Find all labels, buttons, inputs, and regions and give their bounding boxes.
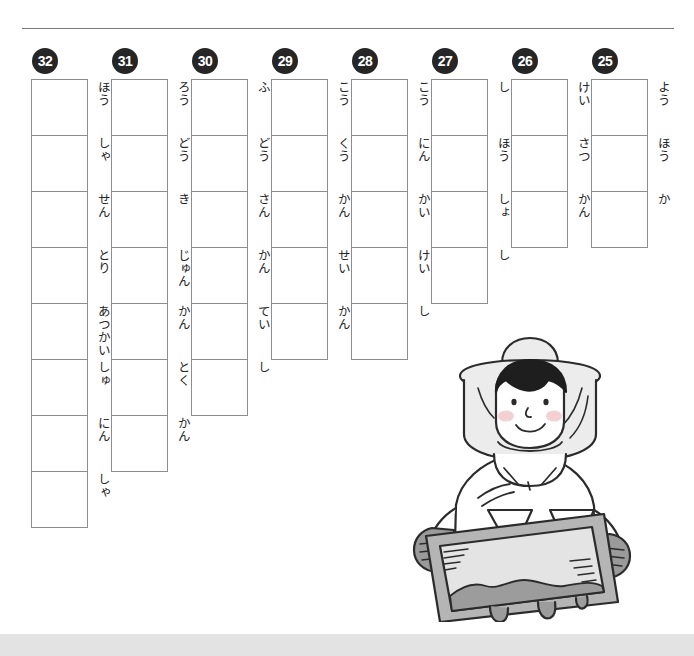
furigana-reading: かん (332, 191, 352, 247)
reading-stack: ようほうか (652, 79, 672, 247)
answer-box[interactable] (192, 192, 247, 248)
exercise-column: 28こうにんかいけいし (351, 48, 432, 360)
column-body: ようほうか (591, 79, 672, 248)
answer-box[interactable] (432, 136, 487, 192)
answer-box-stack (511, 79, 568, 248)
furigana-reading: し (492, 79, 512, 135)
question-number-badge: 29 (272, 48, 298, 74)
furigana-reading: せい (332, 247, 352, 303)
furigana-reading: どう (172, 135, 192, 191)
answer-box[interactable] (272, 192, 327, 248)
furigana-reading: さん (252, 191, 272, 247)
answer-box[interactable] (592, 192, 647, 248)
answer-box[interactable] (432, 192, 487, 248)
answer-box[interactable] (192, 304, 247, 360)
answer-box[interactable] (432, 80, 487, 136)
furigana-reading: ろう (172, 79, 192, 135)
answer-box[interactable] (112, 248, 167, 304)
furigana-reading: じゅん (172, 247, 192, 303)
answer-box[interactable] (272, 136, 327, 192)
furigana-reading: とく (172, 359, 192, 415)
question-number-badge: 26 (512, 48, 538, 74)
furigana-reading: けい (572, 79, 592, 135)
answer-box-stack (591, 79, 648, 248)
answer-box[interactable] (192, 80, 247, 136)
answer-box[interactable] (32, 248, 87, 304)
exercise-column: 29こうくうかんせいかん (271, 48, 352, 360)
question-number-badge: 31 (112, 48, 138, 74)
answer-box[interactable] (112, 416, 167, 472)
furigana-reading: し (492, 247, 512, 303)
answer-box-stack (111, 79, 168, 472)
answer-box[interactable] (192, 136, 247, 192)
furigana-reading: かん (332, 303, 352, 359)
reading-stack: しほうしょし (492, 79, 512, 303)
furigana-reading: き (172, 191, 192, 247)
reading-stack: けいさつかん (572, 79, 592, 247)
answer-box[interactable] (32, 80, 87, 136)
question-number-badge: 30 (192, 48, 218, 74)
answer-box[interactable] (272, 304, 327, 360)
answer-box[interactable] (352, 192, 407, 248)
reading-stack: こうにんかいけいし (412, 79, 432, 359)
reading-stack: こうくうかんせいかん (332, 79, 352, 359)
furigana-reading: か (652, 191, 672, 247)
exercise-column: 32ほうしゃせんとりあつかいしゅにんしゃ (31, 48, 112, 528)
answer-box[interactable] (32, 192, 87, 248)
furigana-reading: かん (252, 247, 272, 303)
answer-box[interactable] (352, 80, 407, 136)
furigana-reading: しゃ (92, 471, 112, 527)
exercise-column: 27しほうしょし (431, 48, 512, 304)
question-number-badge: 32 (32, 48, 58, 74)
answer-box-stack (351, 79, 408, 360)
question-number-badge: 27 (432, 48, 458, 74)
answer-box[interactable] (32, 360, 87, 416)
answer-box[interactable] (32, 416, 87, 472)
furigana-reading: しゅ (92, 359, 112, 415)
furigana-reading: かん (172, 303, 192, 359)
exercise-column: 26けいさつかん (511, 48, 592, 248)
furigana-reading: てい (252, 303, 272, 359)
answer-box[interactable] (432, 248, 487, 304)
answer-box[interactable] (112, 360, 167, 416)
answer-box-stack (31, 79, 88, 528)
answer-box[interactable] (112, 136, 167, 192)
answer-box[interactable] (32, 472, 87, 528)
answer-box-stack (431, 79, 488, 304)
furigana-reading: しゃ (92, 135, 112, 191)
furigana-reading: こう (412, 79, 432, 135)
answer-box[interactable] (272, 80, 327, 136)
furigana-reading: さつ (572, 135, 592, 191)
answer-box[interactable] (32, 304, 87, 360)
column-body: けいさつかん (511, 79, 592, 248)
column-body: ろうどうきじゅんかんとくかん (111, 79, 192, 472)
answer-box[interactable] (592, 136, 647, 192)
answer-box[interactable] (32, 136, 87, 192)
answer-box[interactable] (272, 248, 327, 304)
reading-stack: ろうどうきじゅんかんとくかん (172, 79, 192, 471)
answer-box[interactable] (192, 360, 247, 416)
exercise-column: 31ろうどうきじゅんかんとくかん (111, 48, 192, 472)
answer-box[interactable] (352, 136, 407, 192)
answer-box[interactable] (512, 192, 567, 248)
furigana-reading: しょ (492, 191, 512, 247)
furigana-reading: し (252, 359, 272, 415)
furigana-reading: よう (652, 79, 672, 135)
furigana-reading: にん (92, 415, 112, 471)
reading-stack: ほうしゃせんとりあつかいしゅにんしゃ (92, 79, 112, 527)
furigana-reading: かい (412, 191, 432, 247)
answer-box[interactable] (112, 304, 167, 360)
answer-box[interactable] (192, 248, 247, 304)
column-body: こうくうかんせいかん (271, 79, 352, 360)
answer-box[interactable] (352, 248, 407, 304)
column-body: こうにんかいけいし (351, 79, 432, 360)
worksheet-page: 32ほうしゃせんとりあつかいしゅにんしゃ31ろうどうきじゅんかんとくかん30ふど… (0, 0, 694, 656)
column-body: ほうしゃせんとりあつかいしゅにんしゃ (31, 79, 112, 528)
furigana-reading: とり (92, 247, 112, 303)
answer-box[interactable] (512, 80, 567, 136)
answer-box[interactable] (512, 136, 567, 192)
answer-box[interactable] (112, 80, 167, 136)
answer-box[interactable] (112, 192, 167, 248)
answer-box[interactable] (592, 80, 647, 136)
furigana-reading: どう (252, 135, 272, 191)
